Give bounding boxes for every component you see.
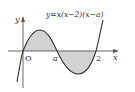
x-axis-label: x (113, 53, 118, 62)
y-axis-arrow-icon (21, 16, 25, 22)
equation-label: y=x(x−2)(x−a) (45, 10, 103, 19)
tick-label-a: a (53, 54, 58, 63)
tick-label-2: 2 (96, 54, 101, 63)
y-axis-label: y (14, 15, 20, 24)
origin-label: O (25, 54, 32, 63)
cubic-graph-diagram: y x O a 2 y=x(x−2)(x−a) (0, 0, 135, 92)
